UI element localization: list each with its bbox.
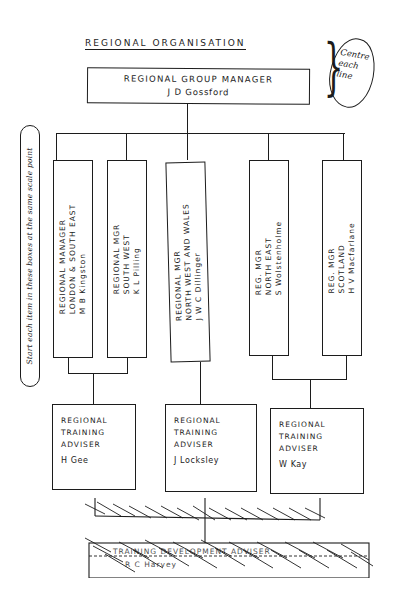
manager-box-south-west: REGIONAL MGR SOUTH WEST K L Pilling — [107, 160, 147, 358]
connector — [346, 356, 347, 380]
connector — [187, 134, 188, 160]
note-text: Start each item in these boxes at the sa… — [25, 148, 35, 365]
role-label: REG. MGR — [327, 222, 337, 293]
person-name: S Wolstenholme — [274, 221, 284, 295]
chart-title: REGIONAL ORGANISATION — [85, 38, 246, 50]
connector — [310, 380, 311, 408]
region-label: NORTH EAST — [264, 221, 274, 295]
connector — [187, 104, 188, 134]
role-label: ADVISER — [61, 439, 135, 451]
role-label: REGIONAL MGR — [112, 224, 122, 295]
connector — [68, 358, 69, 374]
manager-box-scotland: REG. MGR SCOTLAND H V Macfarlane — [322, 160, 362, 356]
connector — [126, 134, 127, 160]
training-adviser-box: REGIONAL TRAINING ADVISER J Locksley — [165, 404, 257, 492]
person-name: W Kay — [279, 459, 363, 471]
role-label: TRAINING — [279, 431, 363, 443]
connector — [343, 134, 344, 160]
person-name: J D Gossford — [88, 85, 309, 100]
region-label: LONDON & SOUTH EAST — [68, 204, 78, 314]
training-adviser-box: REGIONAL TRAINING ADVISER H Gee — [52, 404, 136, 490]
regional-group-manager-box: REGIONAL GROUP MANAGER J D Gossford — [87, 67, 310, 105]
hatch-icon — [85, 498, 375, 578]
role-label: REGIONAL — [279, 419, 363, 431]
region-label: SCOTLAND — [337, 222, 347, 293]
manager-box-north-east: REG. MGR NORTH EAST S Wolstenholme — [249, 160, 289, 356]
person-name: J W C Dillinger — [191, 203, 204, 321]
role-label: ADVISER — [174, 439, 256, 451]
role-label: ADVISER — [279, 443, 363, 455]
crossed-out-section: TRAINING DEVELOPMENT ADVISER R C Harvey — [85, 498, 375, 578]
person-name: H V Macfarlane — [347, 222, 357, 293]
connector — [56, 133, 57, 160]
region-label: SOUTH WEST — [122, 224, 132, 295]
connector — [268, 134, 269, 160]
role-label: TRAINING — [61, 427, 135, 439]
role-label: REG. MGR — [254, 221, 264, 295]
connector — [93, 374, 94, 404]
manager-box-london-south-east: REGIONAL MANAGER LONDON & SOUTH EAST M B… — [53, 160, 93, 358]
role-label: REGIONAL MANAGER — [58, 204, 68, 314]
role-label: REGIONAL — [61, 415, 135, 427]
connector — [56, 133, 345, 134]
connector — [272, 356, 273, 380]
connector — [68, 373, 128, 374]
note-start-same-scale-point: Start each item in these boxes at the sa… — [20, 125, 40, 387]
connector — [200, 362, 201, 404]
role-label: TRAINING — [174, 427, 256, 439]
person-name: H Gee — [61, 455, 135, 467]
connector — [127, 358, 128, 374]
person-name: M B Kingston — [78, 204, 88, 314]
role-label: REGIONAL — [174, 415, 256, 427]
person-name: K L Pilling — [132, 224, 142, 295]
training-adviser-box: REGIONAL TRAINING ADVISER W Kay — [270, 408, 364, 494]
manager-box-north-west-wales: REGIONAL MGR NORTH WEST AND WALES J W C … — [165, 162, 210, 363]
person-name: J Locksley — [174, 455, 256, 467]
